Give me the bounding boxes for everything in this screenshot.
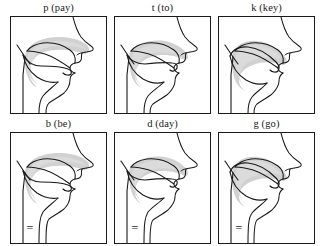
panel-label-k: k (key) <box>218 2 315 14</box>
head-profile <box>254 17 301 113</box>
panel-label-p: p (pay) <box>10 2 107 14</box>
sagittal-diagram-d: = <box>115 133 210 243</box>
panel-box-k <box>218 16 315 114</box>
vocal-tract-figure: p (pay) <box>0 0 322 246</box>
tongue-shading <box>129 41 188 88</box>
tongue-shading <box>129 157 188 204</box>
panel-t: t (to) <box>114 2 211 116</box>
voicing-mark-b: = <box>27 221 34 235</box>
panel-label-b: b (be) <box>10 118 107 130</box>
voicing-mark-g: = <box>236 221 243 235</box>
panel-grid: p (pay) <box>0 0 322 246</box>
panel-k: k (key) <box>218 2 315 116</box>
head-profile <box>46 133 93 243</box>
jaw-neck <box>144 82 164 113</box>
head-profile <box>46 17 93 113</box>
panel-box-b: = <box>10 132 107 244</box>
jaw-neck <box>248 83 267 113</box>
sagittal-diagram-p <box>11 17 106 113</box>
panel-p: p (pay) <box>10 2 107 116</box>
panel-label-t: t (to) <box>114 2 211 14</box>
sagittal-diagram-g: = <box>219 133 314 243</box>
jaw-neck <box>248 199 267 243</box>
panel-d: d (day) <box>114 118 211 244</box>
jaw-neck <box>39 82 58 113</box>
panel-box-g: = <box>218 132 315 244</box>
sagittal-diagram-b: = <box>11 133 106 243</box>
panel-label-g: g (go) <box>218 118 315 130</box>
panel-box-d: = <box>114 132 211 244</box>
sagittal-diagram-t <box>115 17 210 113</box>
panel-b: b (be) <box>10 118 107 244</box>
head-profile <box>150 17 197 113</box>
voicing-mark-d: = <box>132 221 139 235</box>
panel-box-p <box>10 16 107 114</box>
head-profile <box>150 133 197 243</box>
panel-g: g (go) <box>218 118 315 244</box>
panel-label-d: d (day) <box>114 118 211 130</box>
sagittal-diagram-k <box>219 17 314 113</box>
jaw-neck <box>144 198 164 243</box>
panel-box-t <box>114 16 211 114</box>
